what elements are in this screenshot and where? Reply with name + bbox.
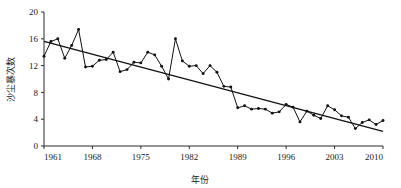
data-point-marker [195, 64, 198, 67]
y-tick-label: 4 [34, 114, 39, 124]
data-point-marker [126, 68, 129, 71]
y-tick-label: 8 [34, 88, 39, 98]
data-point-marker [91, 65, 94, 68]
y-axis-title: 沙尘暴次数 [5, 57, 16, 102]
data-point-marker [167, 78, 170, 81]
data-point-marker [299, 120, 302, 123]
data-point-marker [243, 104, 246, 107]
x-tick-label: 1996 [277, 152, 296, 162]
x-axis-title: 年份 [191, 174, 209, 185]
data-point-marker [354, 127, 357, 130]
series-line-dust-storm [44, 29, 383, 128]
data-point-marker [278, 110, 281, 113]
x-tick-label: 1989 [229, 152, 248, 162]
data-point-marker [153, 53, 156, 56]
data-point-marker [112, 51, 115, 54]
data-point-marker [361, 121, 364, 124]
y-axis-ticks: 048121620 [29, 7, 44, 151]
y-axis: 048121620 [29, 7, 44, 151]
x-tick-label: 1968 [83, 152, 102, 162]
data-point-marker [326, 104, 329, 107]
y-tick-label: 12 [29, 61, 38, 71]
data-point-marker [340, 114, 343, 117]
data-point-marker [209, 64, 212, 67]
data-point-marker [84, 65, 87, 68]
data-series-group [43, 28, 385, 130]
data-point-marker [216, 71, 219, 74]
y-tick-label: 20 [29, 7, 39, 17]
data-point-marker [56, 37, 59, 40]
data-point-marker [222, 85, 225, 88]
x-tick-label: 1961 [44, 152, 62, 162]
data-point-marker [181, 59, 184, 62]
data-point-marker [236, 106, 239, 109]
data-point-marker [188, 65, 191, 68]
data-point-marker [250, 108, 253, 111]
linear-trend-line [44, 41, 383, 131]
data-point-marker [139, 61, 142, 64]
y-tick-label: 0 [34, 141, 39, 151]
data-point-marker [368, 118, 371, 121]
data-point-marker [98, 59, 101, 62]
data-point-marker [229, 86, 232, 89]
data-point-marker [202, 72, 205, 75]
data-point-marker [312, 114, 315, 117]
x-tick-label: 2003 [326, 152, 345, 162]
x-axis: 19611968197519821989199620032010 [44, 146, 384, 162]
y-tick-label: 16 [29, 34, 39, 44]
data-point-marker [146, 51, 149, 54]
data-point-marker [63, 57, 66, 60]
x-tick-label: 1975 [132, 152, 151, 162]
data-point-marker [174, 37, 177, 40]
data-point-marker [375, 123, 378, 126]
data-point-marker [347, 116, 350, 119]
data-point-marker [160, 65, 163, 68]
data-point-marker [132, 61, 135, 64]
x-tick-label: 1982 [180, 152, 198, 162]
dust-storm-frequency-chart: 048121620 196119681975198219891996200320… [0, 0, 401, 188]
series-markers [43, 28, 385, 130]
data-point-marker [43, 55, 46, 58]
data-point-marker [271, 112, 274, 115]
data-point-marker [77, 28, 80, 31]
data-point-marker [70, 44, 73, 47]
data-point-marker [333, 108, 336, 111]
chart-plot-area: 048121620 196119681975198219891996200320… [0, 0, 401, 188]
data-point-marker [264, 108, 267, 111]
x-tick-label: 2010 [365, 152, 384, 162]
data-point-marker [119, 70, 122, 73]
data-point-marker [319, 117, 322, 120]
x-axis-ticks: 19611968197519821989199620032010 [44, 146, 384, 162]
data-point-marker [382, 119, 385, 122]
data-point-marker [257, 107, 260, 110]
